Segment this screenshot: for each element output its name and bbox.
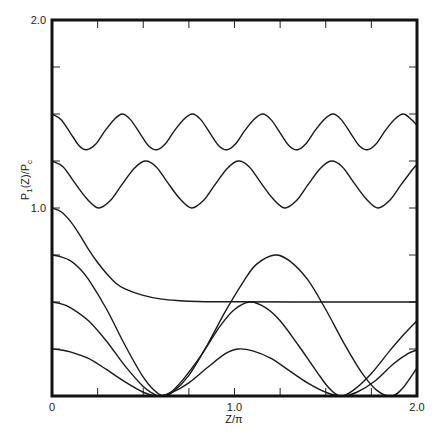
curves	[52, 114, 417, 396]
x-tick-label: 1.0	[227, 401, 242, 413]
y-axis-title-sub2: c	[25, 160, 34, 164]
y-axis-title-main: P	[19, 193, 31, 200]
series-line-curve-1	[52, 114, 417, 150]
ticks	[52, 20, 417, 396]
series-line-curve-2	[52, 161, 417, 208]
x-axis-title: Z/π	[225, 413, 243, 425]
plot-frame	[52, 20, 417, 396]
x-tick-label: 0	[49, 401, 55, 413]
y-tick-label: 1.0	[31, 202, 46, 214]
y-axis-title: P1(Z)/Pc	[19, 160, 34, 200]
y-tick-label: 2.0	[31, 14, 46, 26]
series-line-curve-4	[52, 255, 417, 396]
chart: 01.02.01.02.0 Z/π P1(Z)/Pc	[0, 0, 437, 438]
x-tick-label: 2.0	[409, 401, 424, 413]
y-axis-title-mid: (Z)/P	[19, 164, 31, 188]
series-line-curve-3	[52, 208, 417, 302]
